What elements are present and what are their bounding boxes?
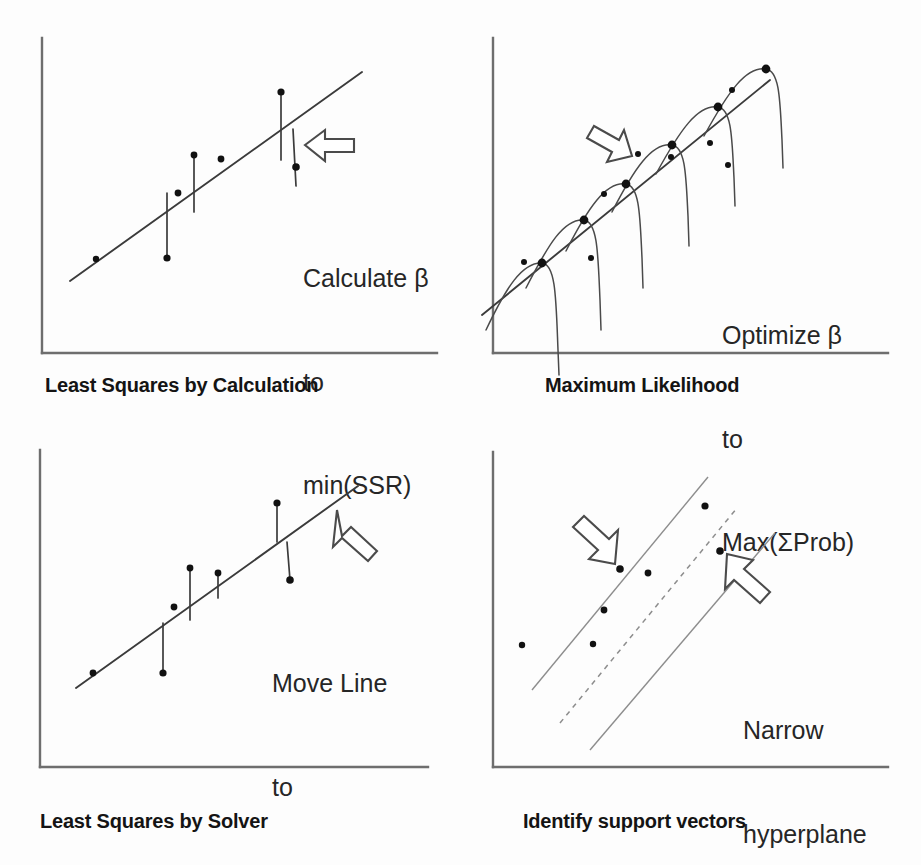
annotation-line: Move Line (272, 666, 394, 701)
data-point (163, 254, 170, 261)
annotation-least-squares-solver: Move Line to Min(SSR) with Solver (272, 597, 394, 865)
caption-least-squares-solver: Least Squares by Solver (40, 810, 268, 833)
data-point-mean (580, 216, 589, 225)
distribution-curve (656, 107, 735, 206)
caption-identify-support-vectors: Identify support vectors (523, 810, 746, 833)
caption-least-squares-calculation: Least Squares by Calculation (45, 374, 318, 397)
data-point (601, 607, 608, 614)
data-point (521, 259, 527, 265)
up-left-arrow-icon (333, 510, 377, 561)
data-point-mean (622, 180, 631, 189)
data-point (588, 255, 594, 261)
distribution-curve (486, 263, 559, 375)
annotation-identify-support-vectors: Narrow hyperplane (743, 644, 867, 865)
data-point (292, 163, 300, 171)
data-point-mean (762, 65, 771, 74)
data-point (519, 642, 525, 648)
data-point (159, 669, 166, 676)
data-point (286, 576, 294, 584)
data-point (277, 88, 284, 95)
data-point (635, 151, 641, 157)
data-point (701, 502, 708, 509)
panel-identify-support-vectors: Narrow hyperplane Identify support vecto… (460, 420, 921, 865)
data-point (187, 565, 194, 572)
data-point (90, 670, 97, 677)
right-down-arrow-icon (587, 126, 632, 162)
data-point (171, 604, 178, 611)
data-point (725, 162, 731, 168)
down-right-arrow-icon (573, 516, 618, 564)
caption-maximum-likelihood: Maximum Likelihood (545, 374, 739, 397)
up-left-arrow-icon (725, 554, 770, 603)
data-point (645, 570, 652, 577)
distribution-curve (612, 145, 689, 246)
data-point (729, 87, 735, 93)
panel-least-squares-calculation: Calculate β to min(SSR) Least Squares by… (0, 0, 460, 420)
left-arrow-icon (305, 130, 354, 161)
annotation-line: hyperplane (743, 817, 867, 852)
annotation-line: Narrow (743, 713, 867, 748)
data-point (175, 190, 182, 197)
data-point (707, 140, 713, 146)
distribution-curve (526, 220, 601, 330)
data-point-support-vector (616, 565, 624, 573)
annotation-line: Calculate β (303, 261, 429, 296)
data-point (215, 570, 222, 577)
figure-canvas: Calculate β to min(SSR) Least Squares by… (0, 0, 921, 865)
data-point (93, 256, 99, 262)
panel-least-squares-solver: Move Line to Min(SSR) with Solver Least … (0, 420, 460, 865)
data-point (191, 152, 198, 159)
data-point (601, 191, 607, 197)
annotation-line: to (303, 365, 429, 400)
data-point (273, 499, 280, 506)
distribution-curve (704, 69, 783, 168)
data-point (668, 154, 674, 160)
residual-segment (293, 129, 296, 186)
annotation-line: Optimize β (722, 318, 854, 353)
data-point-mean (538, 259, 547, 268)
data-point (590, 641, 596, 647)
data-point-mean (668, 141, 677, 150)
data-point-mean (714, 103, 723, 112)
data-point-support-vector (716, 547, 724, 555)
residual-segment (287, 542, 290, 580)
upper-margin-line (532, 477, 708, 690)
panel-maximum-likelihood: Optimize β to Max(ΣProb) Maximum Likelih… (460, 0, 921, 420)
annotation-line: to (272, 770, 394, 805)
data-point (218, 156, 225, 163)
